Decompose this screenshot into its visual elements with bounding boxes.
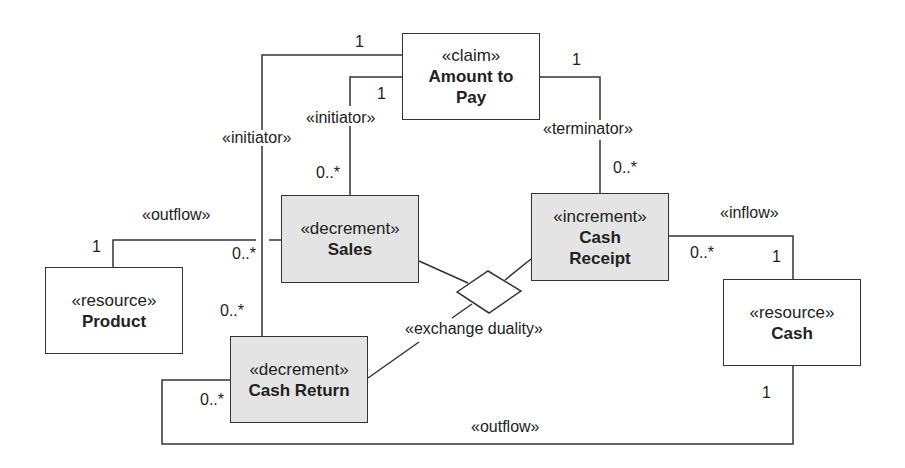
class-amount-to-pay[interactable]: «claim» Amount to Pay — [402, 33, 540, 120]
class-product[interactable]: «resource» Product — [45, 267, 183, 354]
label-initiator-outer: «initiator» — [222, 129, 291, 147]
mult-return-top: 0..* — [220, 302, 244, 320]
mult-product: 1 — [92, 238, 101, 256]
label-outflow-cash: «outflow» — [471, 418, 540, 436]
mult-receipt-right: 0..* — [690, 244, 714, 262]
label-exchange-duality: «exchange duality» — [405, 320, 543, 338]
class-name: Cash Receipt — [565, 227, 635, 269]
mult-cash-bottom: 1 — [762, 384, 771, 402]
association-initiator-inner — [350, 77, 402, 106]
class-name: Sales — [328, 239, 372, 260]
mult-claim-inner: 1 — [377, 85, 386, 103]
class-cash-return[interactable]: «decrement» Cash Return — [230, 336, 368, 423]
association-terminator — [540, 77, 600, 120]
stereotype: «resource» — [71, 290, 156, 311]
class-name: Product — [82, 311, 146, 332]
mult-sales-left: 0..* — [232, 245, 256, 263]
duality-line-sales — [419, 261, 468, 283]
class-sales[interactable]: «decrement» Sales — [281, 195, 419, 283]
mult-return-left: 0..* — [200, 391, 224, 409]
stereotype: «claim» — [442, 45, 501, 66]
stereotype: «resource» — [749, 302, 834, 323]
stereotype: «decrement» — [300, 218, 399, 239]
label-outflow-product: «outflow» — [142, 206, 211, 224]
mult-cash-top: 1 — [772, 248, 781, 266]
class-name: Cash Return — [248, 380, 349, 401]
stereotype: «increment» — [553, 206, 647, 227]
duality-line-receipt — [505, 259, 531, 280]
stereotype: «decrement» — [249, 359, 348, 380]
label-initiator-inner: «initiator» — [306, 109, 375, 127]
mult-claim-outer: 1 — [355, 33, 364, 51]
mult-receipt-top: 0..* — [613, 159, 637, 177]
class-name: Amount to Pay — [421, 66, 521, 108]
label-inflow: «inflow» — [720, 204, 779, 222]
class-cash-receipt[interactable]: «increment» Cash Receipt — [531, 193, 669, 281]
label-terminator: «terminator» — [543, 120, 633, 138]
mult-claim-right: 1 — [572, 51, 581, 69]
class-name: Cash — [771, 323, 813, 344]
mult-sales-top: 0..* — [316, 164, 340, 182]
duality-line-return — [452, 304, 472, 318]
class-cash[interactable]: «resource» Cash — [723, 279, 861, 366]
exchange-duality-diamond — [457, 271, 521, 313]
